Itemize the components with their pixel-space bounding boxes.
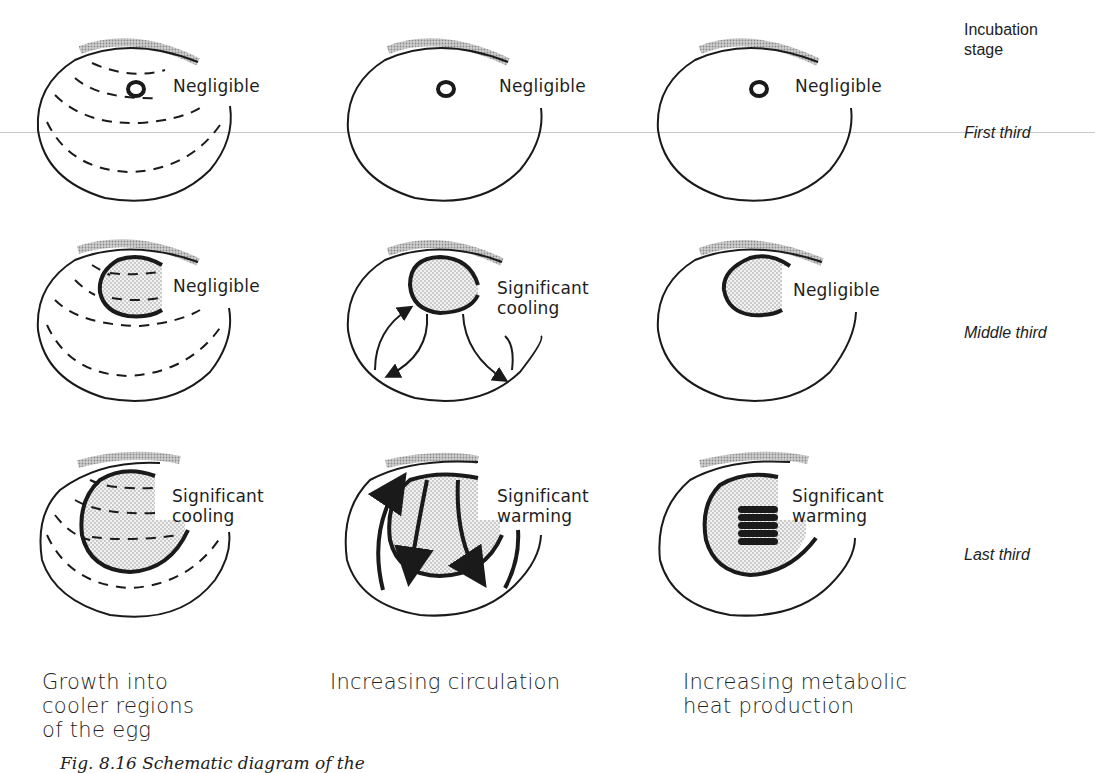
egg-panel-circulation-first — [348, 42, 542, 200]
stage-label-last: Last third — [964, 546, 1030, 564]
egg-panel-growth-middle — [38, 243, 230, 401]
stage-label-middle: Middle third — [964, 324, 1047, 342]
egg-outline — [38, 48, 231, 201]
column-caption-growth: Growth into cooler regions of the egg — [42, 670, 194, 742]
panel-label: Negligible — [173, 276, 260, 296]
panel-label: Negligible — [793, 280, 880, 300]
shell-shading — [78, 456, 180, 464]
egg-panel-metabolic-first — [658, 42, 852, 200]
panel-label: Significant cooling — [172, 486, 264, 526]
column-caption-metabolic: Increasing metabolic heat production — [683, 670, 907, 718]
heat-production-coil — [738, 506, 778, 545]
embryo — [751, 82, 767, 96]
panel-label: Negligible — [499, 76, 586, 96]
panel-label: Significant warming — [497, 486, 589, 526]
panel-label: Negligible — [795, 76, 882, 96]
panel-label: Negligible — [173, 76, 260, 96]
panel-label: Significant cooling — [497, 278, 589, 318]
egg-panel-circulation-last — [346, 457, 541, 616]
egg-panel-metabolic-last — [659, 456, 855, 616]
panel-label: Significant warming — [792, 486, 884, 526]
embryo — [128, 82, 144, 96]
egg-panel-circulation-middle — [348, 244, 542, 401]
egg-panel-growth-last — [40, 456, 229, 617]
figure-caption: Fig. 8.16 Schematic diagram of the — [60, 753, 365, 773]
embryo — [438, 82, 454, 96]
stage-header: Incubation stage — [964, 20, 1064, 60]
column-caption-circulation: Increasing circulation — [330, 670, 560, 694]
egg-panel-growth-first — [38, 42, 231, 200]
embryo-area — [410, 257, 478, 313]
egg-outline — [348, 48, 542, 201]
blood-vessels — [375, 308, 513, 380]
egg-outline — [658, 48, 852, 201]
egg-panel-metabolic-middle — [658, 244, 856, 401]
embryo-area — [100, 257, 162, 316]
stage-label-first: First third — [964, 124, 1031, 142]
